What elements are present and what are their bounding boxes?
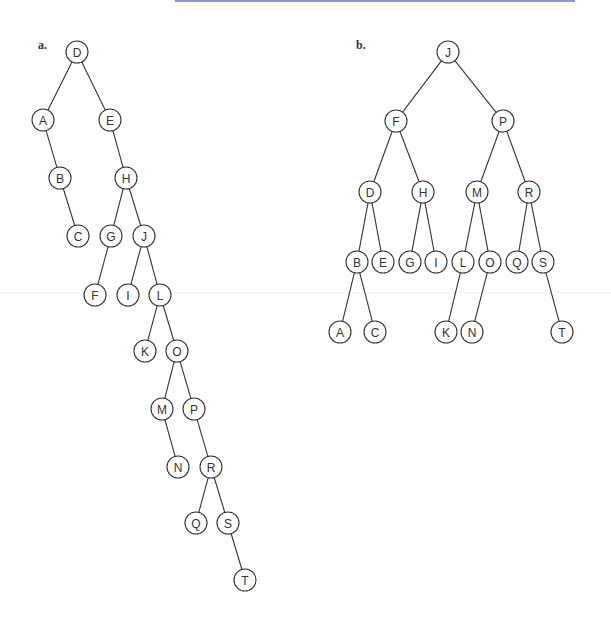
edge-D-B <box>359 203 368 251</box>
node-label: J <box>445 46 451 60</box>
node-label: Q <box>512 256 521 270</box>
edge-F-H <box>400 131 419 181</box>
tree-node-H: H <box>412 181 434 203</box>
node-label: E <box>379 256 387 270</box>
node-label: B <box>353 256 361 270</box>
tree-node-E: E <box>372 251 394 273</box>
edge-A-B <box>46 131 57 168</box>
tree-node-P: P <box>492 110 514 132</box>
node-label: T <box>241 574 249 588</box>
node-label: J <box>141 230 147 244</box>
edge-J-L <box>147 247 157 285</box>
node-label: L <box>157 289 164 303</box>
node-label: D <box>366 186 375 200</box>
tree-node-G: G <box>399 251 421 273</box>
tree-node-M: M <box>151 398 173 420</box>
edge-B-C <box>360 273 373 322</box>
node-label: P <box>499 115 507 129</box>
edge-L-K <box>449 273 461 322</box>
node-label: C <box>74 230 83 244</box>
node-label: N <box>468 326 477 340</box>
edge-F-D <box>374 131 392 181</box>
edge-L-O <box>163 306 174 341</box>
edge-E-H <box>113 131 123 168</box>
edge-O-P <box>180 362 191 399</box>
tree-node-P: P <box>183 398 205 420</box>
node-label: L <box>460 256 467 270</box>
edge-J-I <box>131 247 141 285</box>
edge-O-M <box>165 362 174 399</box>
tree-node-D: D <box>359 181 381 203</box>
tree-node-J: J <box>133 225 155 247</box>
node-label: K <box>141 345 149 359</box>
edge-M-O <box>479 203 488 251</box>
tree-node-N: N <box>167 456 189 478</box>
panel-a-edges <box>46 62 242 570</box>
edge-P-R <box>507 131 525 181</box>
edge-R-Q <box>199 478 208 513</box>
edge-H-I <box>425 203 434 251</box>
tree-node-J: J <box>437 41 459 63</box>
tree-node-K: K <box>435 321 457 343</box>
edge-J-F <box>403 61 442 112</box>
node-label: S <box>224 517 232 531</box>
tree-node-B: B <box>49 167 71 189</box>
tree-node-L: L <box>149 284 171 306</box>
node-label: D <box>73 46 82 60</box>
node-label: C <box>371 326 380 340</box>
edge-R-S <box>531 203 541 251</box>
edge-M-L <box>465 203 475 251</box>
node-label: E <box>106 114 114 128</box>
tree-node-B: B <box>346 251 368 273</box>
panel-a-nodes: DAEBHCGJFILKOMPNRQST <box>32 41 256 591</box>
node-label: O <box>485 256 494 270</box>
tree-node-I: I <box>117 284 139 306</box>
tree-node-T: T <box>551 321 573 343</box>
node-label: A <box>336 326 344 340</box>
node-label: H <box>419 186 428 200</box>
panel-a: a. DAEBHCGJFILKOMPNRQST <box>32 38 256 591</box>
edge-L-K <box>148 306 157 341</box>
node-label: A <box>39 114 47 128</box>
node-label: G <box>106 230 115 244</box>
node-label: S <box>539 256 547 270</box>
edge-B-C <box>63 189 74 226</box>
tree-node-R: R <box>200 456 222 478</box>
edge-H-J <box>129 189 140 226</box>
node-label: Q <box>191 517 200 531</box>
edge-M-N <box>165 420 175 457</box>
tree-node-C: C <box>67 225 89 247</box>
node-label: R <box>525 186 534 200</box>
edge-S-T <box>546 273 559 322</box>
edge-B-A <box>343 273 355 322</box>
tree-node-I: I <box>425 251 447 273</box>
edge-D-A <box>48 62 72 110</box>
binary-search-trees-figure: a. DAEBHCGJFILKOMPNRQST b. JFPDHMRBEGILO… <box>0 0 611 626</box>
edge-H-G <box>114 189 123 226</box>
node-label: N <box>174 461 183 475</box>
edge-O-N <box>475 273 488 322</box>
edge-R-S <box>214 478 225 513</box>
node-label: I <box>434 256 437 270</box>
edge-S-T <box>231 534 242 570</box>
tree-node-O: O <box>166 340 188 362</box>
node-label: G <box>405 256 414 270</box>
edge-D-E <box>372 203 381 251</box>
tree-node-C: C <box>364 321 386 343</box>
edge-D-E <box>82 62 105 110</box>
tree-node-L: L <box>452 251 474 273</box>
node-label: P <box>190 403 198 417</box>
node-label: H <box>122 172 131 186</box>
node-label: T <box>558 326 566 340</box>
node-label: K <box>442 326 450 340</box>
tree-node-D: D <box>66 41 88 63</box>
panel-b-label: b. <box>356 38 366 52</box>
edge-R-Q <box>519 203 527 251</box>
node-label: B <box>56 172 64 186</box>
tree-node-F: F <box>385 110 407 132</box>
tree-node-O: O <box>479 251 501 273</box>
node-label: R <box>207 461 216 475</box>
tree-node-E: E <box>99 109 121 131</box>
tree-node-T: T <box>234 569 256 591</box>
node-label: I <box>126 289 129 303</box>
